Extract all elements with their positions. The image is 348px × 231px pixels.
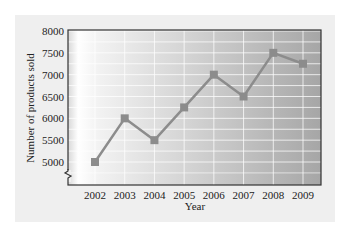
data-point-marker [121, 114, 129, 122]
x-tick-label: 2003 [114, 189, 137, 201]
gridlines [68, 30, 321, 185]
x-tick-label: 2002 [84, 189, 106, 201]
line-chart: 5000550060006500700075008000 20022003200… [0, 0, 348, 231]
y-tick-label: 6000 [42, 112, 65, 124]
x-axis-title: Year [185, 200, 206, 212]
x-tick-label: 2008 [262, 189, 285, 201]
y-tick-label: 5500 [42, 134, 65, 146]
data-point-marker [269, 49, 277, 57]
x-tick-label: 2004 [143, 189, 166, 201]
x-tick-label: 2007 [233, 189, 256, 201]
y-axis-title: Number of products sold [24, 53, 36, 163]
y-tick-label: 8000 [42, 25, 65, 37]
y-tick-label: 6500 [42, 91, 65, 103]
y-axis-ticks: 5000550060006500700075008000 [42, 25, 65, 168]
data-point-marker [150, 136, 158, 144]
data-point-marker [299, 60, 307, 68]
data-point-marker [180, 103, 188, 111]
data-point-marker [240, 93, 248, 101]
y-tick-label: 7000 [42, 69, 65, 81]
data-point-marker [210, 71, 218, 79]
y-tick-label: 5000 [42, 156, 65, 168]
y-tick-label: 7500 [42, 47, 65, 59]
data-point-marker [91, 158, 99, 166]
x-tick-label: 2009 [292, 189, 315, 201]
x-tick-label: 2006 [203, 189, 226, 201]
